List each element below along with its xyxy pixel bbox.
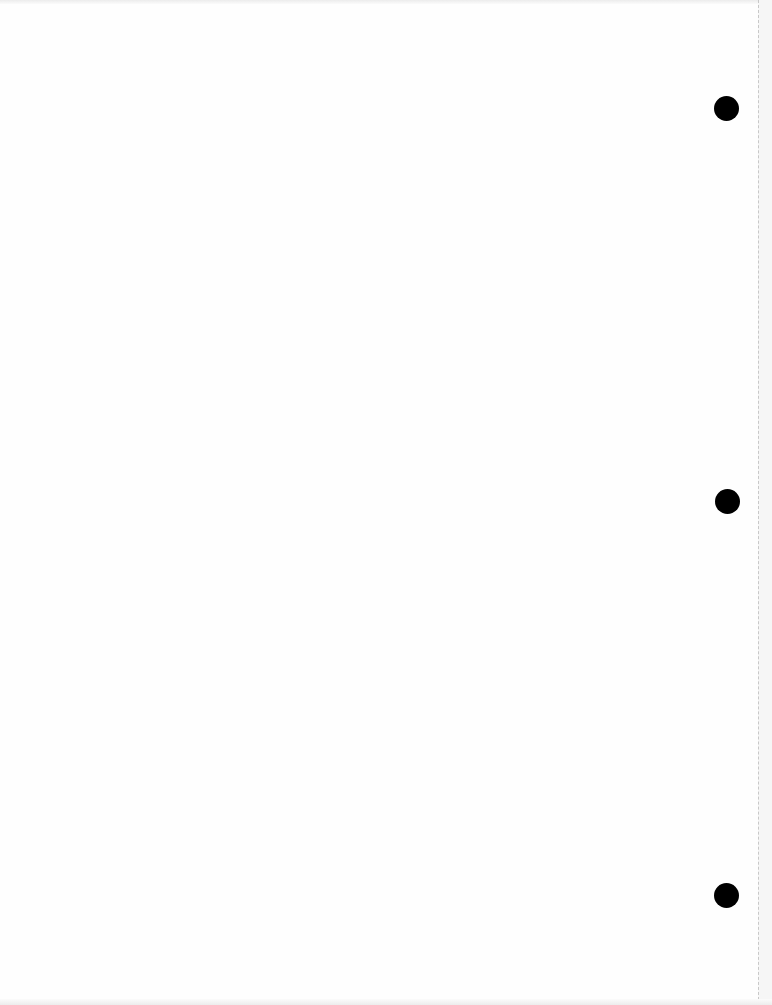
- hole-punch-icon: [714, 96, 739, 121]
- perforation-line: [758, 0, 759, 1005]
- hole-punch-icon: [714, 883, 739, 908]
- blank-page: [0, 0, 772, 1005]
- scan-top-edge: [0, 0, 772, 4]
- hole-punch-icon: [715, 489, 740, 514]
- perforated-margin: [758, 0, 772, 1005]
- scan-bottom-edge: [0, 999, 772, 1005]
